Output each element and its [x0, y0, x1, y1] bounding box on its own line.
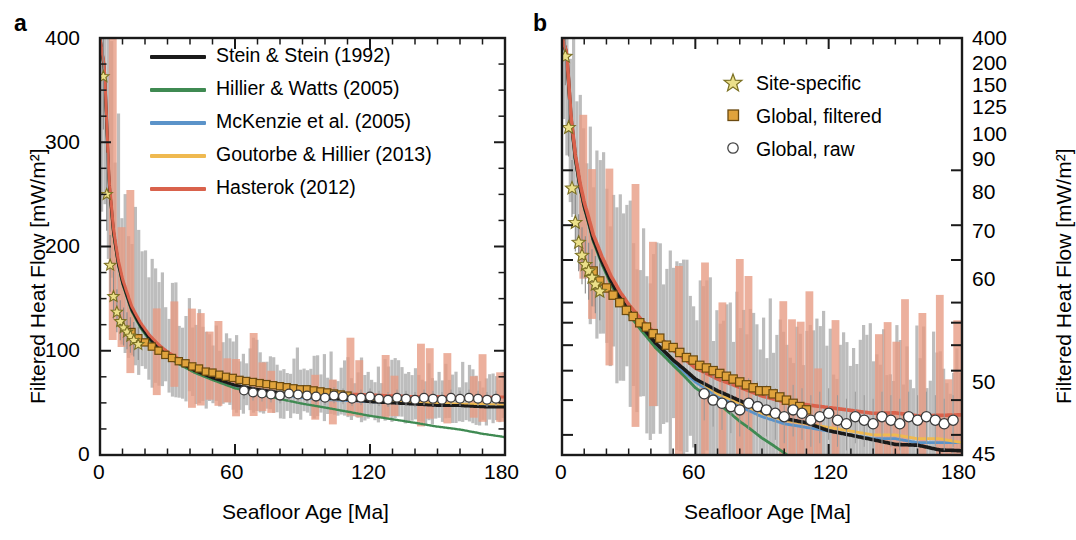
legend-label-global-raw: Global, raw — [756, 138, 855, 161]
legend-marker-circle — [724, 139, 742, 157]
legend-marker-square — [724, 106, 742, 124]
legend-label-global-filtered: Global, filtered — [756, 105, 882, 128]
legend-marker-star — [722, 72, 744, 94]
legend-label-site-specific: Site-specific — [756, 72, 861, 95]
